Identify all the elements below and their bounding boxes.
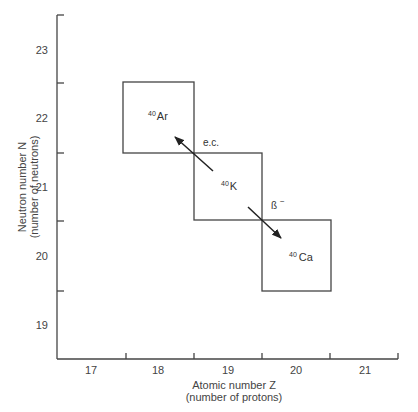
beta-decay-label: ß− <box>271 197 285 211</box>
y-axis <box>57 15 64 359</box>
ec-decay-label: e.c. <box>203 137 219 148</box>
x-tick-21: 21 <box>359 364 371 376</box>
x-tick-17: 17 <box>85 364 97 376</box>
nuclide-label-ca40: 40Ca <box>289 251 314 263</box>
y-tick-19: 19 <box>36 319 48 331</box>
y-tick-20: 20 <box>36 250 48 262</box>
y-tick-22: 22 <box>36 112 48 124</box>
nuclide-label-ar40: 40Ar <box>148 110 168 122</box>
x-axis-title: Atomic number Z <box>192 379 276 391</box>
beta-decay-arrow-icon <box>248 207 281 238</box>
decay-diagram: 23 22 21 20 19 17 18 19 20 21 Atomic num… <box>0 0 418 412</box>
x-tick-19: 19 <box>222 364 234 376</box>
y-axis-title: Neutron number N <box>16 142 28 233</box>
y-tick-23: 23 <box>36 44 48 56</box>
x-tick-20: 20 <box>290 364 302 376</box>
x-tick-18: 18 <box>152 364 164 376</box>
x-axis <box>57 353 398 359</box>
y-axis-subtitle: (number of neutrons) <box>28 136 40 239</box>
x-axis-subtitle: (number of protons) <box>186 391 283 403</box>
nuclide-label-k40: 40K <box>221 180 238 192</box>
